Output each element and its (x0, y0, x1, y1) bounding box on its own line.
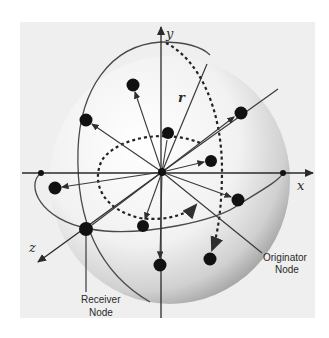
radius-label: r (178, 90, 186, 105)
node (80, 114, 93, 127)
originator-node (204, 253, 217, 266)
center-node (158, 168, 166, 176)
node (162, 127, 174, 139)
sphere-diagram: y x z r Originator Node Receiver Node (0, 0, 329, 338)
receiver-node (79, 222, 93, 236)
node (127, 79, 140, 92)
z-axis-label: z (28, 240, 36, 255)
originator-label-line1: Originator (263, 252, 308, 263)
node (235, 107, 248, 120)
axis-intersection-dot (38, 170, 44, 176)
originator-label-line2: Node (275, 264, 299, 275)
x-axis-label: x (297, 178, 305, 193)
node (49, 182, 62, 195)
axis-intersection-dot (280, 170, 286, 176)
node (137, 220, 149, 232)
receiver-label-line1: Receiver (81, 294, 121, 305)
node (205, 155, 217, 167)
receiver-label-line2: Node (89, 307, 113, 318)
node (154, 259, 167, 272)
bottom-crop (0, 318, 329, 338)
node (232, 194, 245, 207)
y-axis-label: y (165, 26, 174, 41)
diagram-canvas: y x z r Originator Node Receiver Node (0, 0, 329, 338)
